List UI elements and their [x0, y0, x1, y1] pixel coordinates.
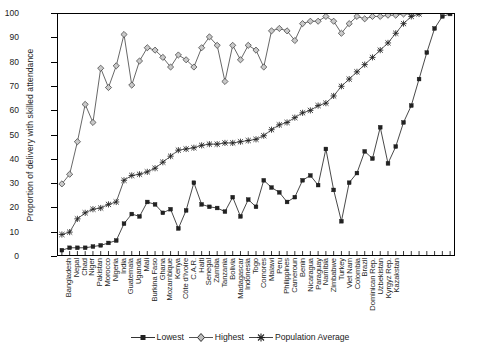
legend-label-highest: Highest: [215, 333, 244, 342]
y-axis-tick-label: 70: [0, 81, 19, 91]
chart-figure: Proportion of delivery with skilled atte…: [0, 0, 480, 356]
y-axis-tick-mark: [51, 256, 57, 257]
y-axis-tick-label: 20: [0, 202, 19, 212]
series-population-average: [59, 14, 422, 238]
chart-legend: Lowest Highest Population Average: [0, 332, 480, 343]
y-axis-title: Proportion of delivery with skilled atte…: [25, 10, 35, 260]
y-axis-tick-label: 60: [0, 105, 19, 115]
plot-canvas: [58, 14, 454, 255]
y-axis-tick-label: 50: [0, 130, 19, 140]
legend-item-highest: Highest: [189, 332, 244, 343]
legend-item-lowest: Lowest: [131, 332, 184, 343]
y-axis-tick-label: 30: [0, 178, 19, 188]
legend-label-population-average: Population Average: [275, 333, 349, 342]
series-svg: [58, 14, 454, 255]
legend-marker-population-average-icon: [249, 332, 273, 343]
y-axis-tick-label: 40: [0, 154, 19, 164]
legend-marker-highest-icon: [189, 332, 213, 343]
legend-item-population-average: Population Average: [249, 332, 349, 343]
x-axis-tick-marks: [62, 251, 450, 255]
y-axis-tick-label: 10: [0, 227, 19, 237]
legend-label-lowest: Lowest: [157, 333, 184, 342]
plot-area: [57, 13, 455, 256]
x-axis-labels: BangladeshNepalChadNigerPakistanMoroccoN…: [57, 258, 455, 328]
y-axis-tick-label: 0: [0, 251, 19, 261]
legend-marker-lowest-icon: [131, 332, 155, 343]
y-axis-tick-label: 80: [0, 57, 19, 67]
x-axis-label: Kazakstan: [392, 258, 401, 293]
y-axis-tick-label: 90: [0, 32, 19, 42]
y-axis-tick-label: 100: [0, 8, 19, 18]
